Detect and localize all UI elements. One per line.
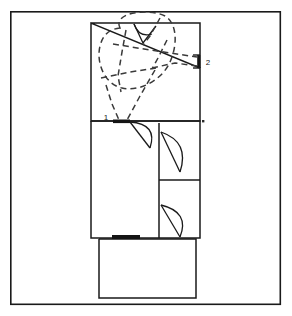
- marker-label-1: 1: [104, 113, 109, 122]
- threshold-door-2: [197, 55, 201, 68]
- junction-dot-right: [202, 120, 204, 122]
- threshold-door-1: [113, 120, 130, 124]
- marker-label-2: 2: [206, 58, 211, 67]
- threshold-south-entry: [112, 235, 140, 239]
- floor-plan-drawing: 1 2: [0, 0, 292, 316]
- floor-plan-figure: 1 2: [0, 0, 292, 316]
- drawing-frame: [11, 12, 281, 305]
